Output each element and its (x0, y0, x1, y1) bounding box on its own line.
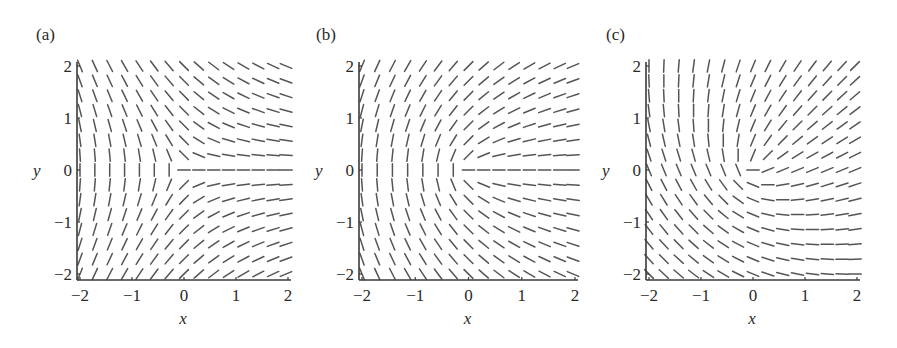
slope-segment (539, 213, 551, 216)
slope-segment (479, 107, 489, 115)
y-tick-label: 2 (346, 57, 355, 76)
slope-segment (733, 211, 744, 218)
slope-segment (166, 135, 173, 146)
slope-segment (253, 63, 264, 69)
slope-segment (554, 228, 566, 232)
slope-segment (138, 134, 142, 146)
slope-segment (751, 60, 756, 71)
slope-segment (180, 151, 189, 160)
slope-segment (450, 194, 457, 205)
slope-segment (121, 61, 127, 72)
slope-segment (464, 240, 473, 249)
slope-segment (451, 149, 456, 160)
slope-segment (420, 105, 426, 116)
slope-segment (405, 224, 410, 235)
slope-segment (376, 134, 378, 146)
slope-segment (152, 194, 157, 205)
slope-segment (793, 136, 803, 144)
slope-segment (479, 270, 488, 278)
slope-segment (493, 138, 504, 143)
slope-segment (538, 155, 550, 156)
slope-segment (136, 239, 142, 250)
slope-segment (703, 256, 713, 263)
slope-segment (849, 213, 861, 215)
slope-segment (523, 184, 535, 186)
slope-segment (209, 241, 219, 248)
slope-segment (693, 60, 695, 72)
slope-segment (791, 244, 803, 246)
slope-segment (674, 240, 683, 249)
slope-segment (449, 225, 457, 235)
slope-segment (109, 134, 111, 146)
panel-label: (a) (36, 25, 55, 44)
slope-segment (736, 90, 740, 102)
slope-segment (678, 75, 679, 87)
slope-segment (493, 197, 504, 202)
slope-segment (723, 119, 724, 131)
slope-segment (779, 76, 786, 87)
x-tick-label: 2 (284, 286, 293, 305)
slope-segment (721, 164, 726, 175)
slope-segment (791, 229, 803, 230)
slope-segment (375, 238, 379, 250)
slope-segment (838, 61, 846, 70)
slope-segment (151, 91, 158, 101)
slope-segment (567, 139, 579, 141)
slope-segment (478, 153, 489, 158)
slope-segment (554, 257, 565, 262)
slope-segment (838, 76, 847, 85)
slope-segment (539, 257, 550, 262)
slope-segment (108, 119, 111, 131)
slope-segment (464, 136, 473, 145)
slope-segment (280, 242, 292, 246)
slope-segment (222, 154, 234, 156)
slope-segment (662, 134, 665, 146)
slope-segment (762, 272, 774, 276)
slope-segment (449, 239, 457, 249)
slope-segment (791, 273, 803, 275)
slope-segment (479, 122, 489, 129)
slope-segment (253, 257, 264, 262)
slope-segment (707, 75, 709, 87)
slope-segment (449, 76, 457, 85)
x-tick-label: 0 (749, 286, 758, 305)
slope-segment (450, 135, 457, 146)
slope-segment (524, 242, 535, 247)
slope-segment (736, 164, 741, 175)
slope-segment (238, 63, 249, 69)
slope-segment (509, 63, 519, 70)
slope-segment (405, 269, 411, 280)
slope-segment (390, 60, 396, 71)
slope-segment (821, 229, 833, 230)
y-axis-title: y (600, 161, 610, 180)
slope-segment (375, 268, 380, 279)
x-axis-title: x (178, 309, 187, 328)
slope-segment (360, 105, 363, 117)
slope-segment (92, 75, 97, 86)
slope-segment (194, 270, 203, 278)
slope-segment (107, 254, 112, 265)
x-tick-label: 1 (801, 286, 810, 305)
slope-segment (464, 106, 473, 115)
slope-segment (524, 78, 535, 84)
slope-segment (464, 76, 473, 85)
slope-segment (194, 211, 204, 218)
slope-segment (691, 164, 696, 175)
slope-segment (376, 119, 379, 131)
slope-segment (208, 138, 219, 143)
slope-segment (707, 149, 710, 161)
slope-segment (736, 60, 740, 72)
slope-segment (151, 254, 158, 264)
slope-segment (122, 105, 127, 116)
slope-segment (751, 75, 756, 86)
slope-segment (223, 123, 234, 128)
slope-segment (165, 106, 173, 116)
slope-segment (406, 120, 410, 132)
slope-segment (707, 60, 709, 72)
slope-segment (663, 119, 665, 131)
slope-segment (208, 197, 219, 202)
slope-segment (794, 76, 801, 86)
slope-segment (567, 257, 579, 261)
slope-segment (539, 227, 551, 231)
slope-segment (837, 122, 847, 129)
